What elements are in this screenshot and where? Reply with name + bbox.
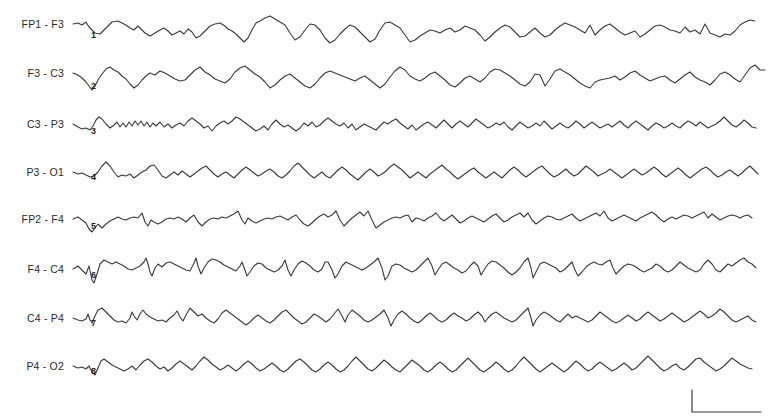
marker-6: 6 [91,270,96,280]
trace-fp1-f3 [73,16,755,43]
eeg-traces [0,0,776,420]
trace-c3-p3 [73,117,756,131]
marker-5: 5 [91,221,96,231]
trace-c4-p4 [73,308,756,326]
marker-1: 1 [91,30,96,40]
marker-4: 4 [91,172,96,182]
trace-p4-o2 [73,356,752,375]
trace-fp2-f4 [73,211,752,232]
marker-2: 2 [91,81,96,91]
eeg-figure: FP1 - F3 F3 - C3 C3 - P3 P3 - O1 FP2 - F… [0,0,776,420]
trace-f3-c3 [73,65,765,90]
marker-3: 3 [91,126,96,136]
marker-8: 8 [91,366,96,376]
calibration-scale-bar [692,390,761,412]
marker-7: 7 [91,318,96,328]
trace-f4-c4 [73,258,756,283]
trace-p3-o1 [73,162,758,180]
